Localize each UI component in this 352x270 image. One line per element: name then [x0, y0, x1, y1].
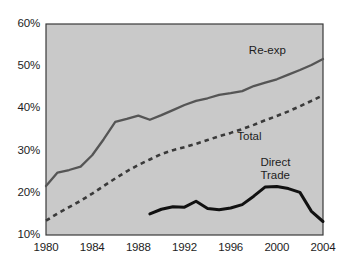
series-label-direct-trade-line2: Trade: [260, 169, 290, 181]
x-axis-tick-label: 2000: [256, 241, 298, 253]
series-label-re-exp: Re-exp: [249, 44, 286, 57]
chart-container: 60%50%40%30%20%10% 198019841988199219962…: [0, 0, 352, 270]
y-axis-tick-label: 30%: [4, 144, 40, 156]
series-label-direct-trade-line1: Direct: [260, 156, 290, 168]
y-axis-tick-label: 50%: [4, 59, 40, 71]
chart-plot-svg: [0, 0, 352, 270]
x-axis-tick-label: 1996: [210, 241, 252, 253]
y-axis-tick-label: 40%: [4, 101, 40, 113]
y-axis-tick-label: 20%: [4, 186, 40, 198]
x-axis-tick-label: 1992: [164, 241, 206, 253]
y-axis-tick-label: 10%: [4, 228, 40, 240]
x-axis-tick-label: 1988: [117, 241, 159, 253]
x-axis-tick-label: 1984: [71, 241, 113, 253]
series-label-direct-trade: Direct Trade: [260, 156, 290, 181]
x-axis-tick-label: 2004: [302, 241, 344, 253]
x-axis-tick-label: 1980: [25, 241, 67, 253]
y-axis-tick-label: 60%: [4, 17, 40, 29]
series-label-total: Total: [237, 130, 261, 143]
